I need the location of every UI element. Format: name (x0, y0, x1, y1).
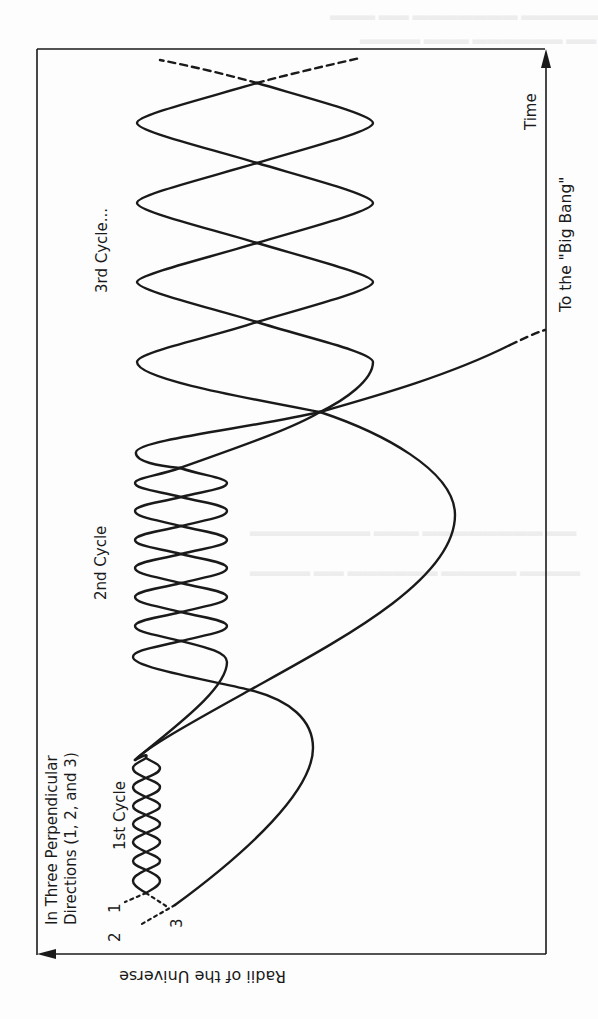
directions-label-line1: In Three Perpendicular (43, 755, 61, 925)
radius-axis (37, 949, 546, 959)
second-cycle-label: 2nd Cycle (92, 526, 110, 600)
third-cycle-label: 3rd Cycle... (93, 208, 111, 293)
time-axis (541, 49, 551, 954)
directions-label-line2: Directions (1, 2, and 3) (62, 752, 80, 925)
first-cycle-curves (133, 755, 160, 893)
cosmology-cycles-diagram (0, 0, 598, 1019)
direction-1-label: 1 (106, 903, 124, 913)
arrow-up-icon (541, 49, 551, 68)
third-cycle-curves (137, 58, 373, 412)
direction-3-label: 3 (168, 918, 186, 928)
transition-3rd-to-2nd (135, 330, 545, 760)
time-axis-label: Time (522, 93, 540, 130)
arrow-left-icon (37, 949, 56, 959)
direction-2-label: 2 (106, 932, 124, 942)
big-bang-label: To the "Big Bang" (557, 177, 575, 312)
radius-axis-label: Radii of the Universe (119, 967, 286, 986)
first-cycle-label: 1st Cycle (111, 781, 129, 850)
